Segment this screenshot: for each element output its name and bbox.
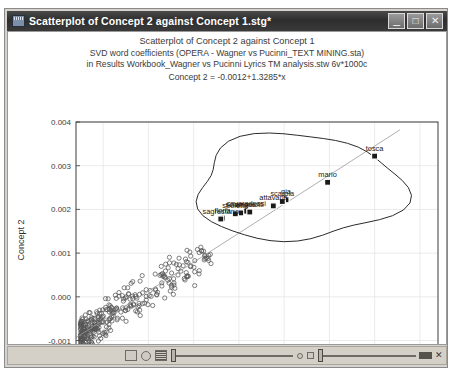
chart-canvas[interactable]: Scatterplot of Concept 2 against Concept… <box>7 31 447 345</box>
curve-icon[interactable] <box>125 350 137 361</box>
close-x-icon[interactable]: ✕ <box>435 351 443 360</box>
labelled-points: toscamariogiascarpiaattavanticavaradossi… <box>203 144 385 222</box>
svg-text:-0.001: -0.001 <box>48 337 71 345</box>
slider-mid-markers <box>293 352 318 359</box>
marker-square-icon <box>307 352 314 359</box>
regression-line <box>76 130 400 338</box>
svg-text:0.001: 0.001 <box>51 249 72 258</box>
svg-text:0.004: 0.004 <box>51 118 72 127</box>
slider-handle[interactable] <box>171 349 176 362</box>
data-point-cloud <box>78 245 213 345</box>
slider-track-2 <box>318 355 416 357</box>
plot-frame <box>76 122 438 345</box>
horizontal-slider-right[interactable] <box>318 349 416 362</box>
svg-text:0.002: 0.002 <box>51 205 72 214</box>
scatterplot: Scatterplot of Concept 2 against Concept… <box>8 32 446 344</box>
gridlines <box>76 122 438 345</box>
slider-handle-2[interactable] <box>318 349 323 362</box>
maximize-button[interactable]: □ <box>407 13 424 29</box>
svg-text:tosca: tosca <box>366 144 385 153</box>
window-title: Scatterplot of Concept 2 against Concept… <box>29 15 388 27</box>
status-bar-tools <box>121 350 171 361</box>
y-axis-ticks: 0.0040.0030.0020.0010.000-0.001 <box>48 118 80 345</box>
plot-svg: toscamariogiascarpiaattavanticavaradossi… <box>8 32 447 345</box>
marker-dot-icon <box>297 353 303 359</box>
statistica-graph-icon <box>12 15 25 27</box>
close-button[interactable]: ✕ <box>426 13 443 29</box>
svg-text:0.000: 0.000 <box>51 293 72 302</box>
status-bar-end: ✕ <box>416 351 446 360</box>
window-controls: _ □ ✕ <box>388 13 443 29</box>
status-bar: ✕ <box>7 346 447 365</box>
bars-icon[interactable] <box>155 350 167 361</box>
y-axis-label: Concept 2 <box>16 219 26 260</box>
window-title-bar[interactable]: Scatterplot of Concept 2 against Concept… <box>7 11 447 31</box>
maximize-icon: □ <box>408 14 423 28</box>
minimize-button[interactable]: _ <box>388 13 405 29</box>
handle-pill-icon[interactable] <box>419 352 432 359</box>
status-bar-blank <box>8 347 121 364</box>
svg-text:sagrestano: sagrestano <box>203 207 240 216</box>
point-icon[interactable] <box>141 351 151 361</box>
svg-text:mario: mario <box>318 170 336 179</box>
slider-track <box>171 355 293 357</box>
minimize-icon: _ <box>389 12 404 26</box>
horizontal-slider-left[interactable] <box>171 349 293 362</box>
svg-text:0.003: 0.003 <box>51 162 72 171</box>
close-icon: ✕ <box>427 14 442 28</box>
application-window: Scatterplot of Concept 2 against Concept… <box>4 8 448 368</box>
